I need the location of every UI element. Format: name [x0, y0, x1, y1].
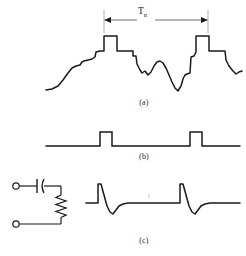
circuit-rc-differentiator [13, 179, 66, 227]
panel-caption-c: (c) [124, 236, 164, 245]
panel-caption-a: (a) [124, 98, 164, 107]
waveform-gating-pulses [46, 132, 240, 146]
waveform-differentiated-spikes [86, 184, 240, 214]
capacitor-plate-curved-icon [42, 179, 44, 193]
arrowhead-left-icon [104, 17, 111, 23]
waveform-ecg-signal [46, 36, 242, 91]
dimension-label-period: Tn [138, 6, 147, 16]
current-label: i [148, 192, 150, 200]
terminal-input-top [13, 183, 19, 189]
figure-container: Tn i (a) (b) (c) [0, 0, 246, 256]
arrowhead-right-icon [201, 17, 208, 23]
dimension-label-subscript: n [144, 11, 147, 18]
dimension-group-period [104, 10, 208, 33]
figure-svg [0, 0, 246, 256]
panel-caption-b: (b) [124, 152, 164, 161]
resistor-zigzag-icon [56, 195, 66, 218]
terminal-input-bottom [13, 221, 19, 227]
